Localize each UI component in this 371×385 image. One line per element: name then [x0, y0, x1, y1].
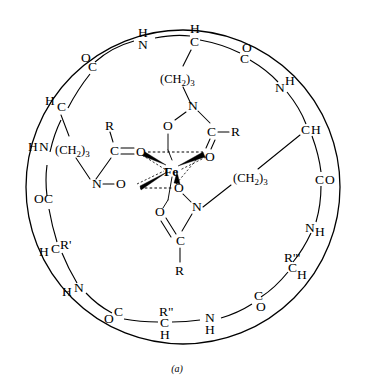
- label-hydrox-left-Ohydroxyl: O: [116, 176, 126, 191]
- label-top-C: C: [190, 34, 199, 49]
- label-right-N: N: [275, 80, 285, 95]
- label-hydrox-bottom-R: R: [175, 263, 184, 278]
- sidechain-top: (CH2)3: [160, 50, 195, 104]
- label-right-CH-H: H: [311, 122, 321, 137]
- bond-leftC-leftR: [110, 132, 113, 142]
- bond-ch2right-Nbottom: [203, 185, 231, 207]
- label-fe-center: Fe: [164, 164, 178, 179]
- bond-leftN-leftC: [96, 158, 111, 179]
- figure-caption: (a): [171, 363, 183, 375]
- label-left-N: N: [39, 139, 49, 154]
- label-bottom-C-H: H: [160, 327, 170, 342]
- label-hydrox-left-R: R: [105, 118, 114, 133]
- bond-bottomC-blC: [124, 319, 158, 322]
- backbone-node-top-carbon: C H: [190, 21, 200, 49]
- label-right-CH-C: C: [301, 122, 310, 137]
- backbone-node-right-ch: C H: [301, 122, 321, 137]
- label-lr-N: N: [305, 220, 315, 235]
- bond-topC-topO-b: [211, 140, 215, 149]
- label-ll-N: N: [74, 280, 84, 295]
- label-hydrox-bottom-Ocarbonyl: O: [155, 204, 165, 219]
- hydroxamate-left: N O C R O: [92, 118, 146, 191]
- label-ch2-left: (CH2)3: [55, 143, 90, 159]
- bond-bottomN-bottomC: [182, 214, 192, 231]
- bond-topN-topOH: [175, 112, 186, 120]
- backbone-node-lowerleft-carbon: C H R': [39, 237, 71, 259]
- backbone-node-lowerright-nitrogen: N H: [305, 220, 325, 239]
- wedge-Fe-to-lowerleftO: [140, 172, 167, 190]
- wedge-Fe-to-upperrightO: [178, 152, 205, 166]
- backbone-node-lowerleft-nitrogen: N H: [62, 280, 84, 299]
- backbone-node-bottomleft-carbonyl: C O: [104, 304, 123, 326]
- backbone-node-bottom-carbon: C R" H: [159, 304, 174, 342]
- label-hydrox-left-C: C: [110, 143, 119, 158]
- bond-topC-topO-a: [206, 139, 210, 148]
- label-left-C: C: [44, 191, 53, 206]
- bond-brC-bottomN: [221, 304, 252, 318]
- label-br-O: O: [256, 299, 266, 314]
- bond-topC-ch2top: [183, 50, 191, 66]
- label-ch2-right: (CH2)3: [233, 171, 268, 187]
- coord-line-topO-Fe: [168, 150, 172, 160]
- label-bl-C: C: [114, 304, 123, 319]
- label-right-CO-C: C: [315, 172, 324, 187]
- label-ul-H: H: [45, 93, 55, 108]
- label-hydrox-top-N: N: [188, 98, 198, 113]
- backbone-node-bottom-nitrogen: N H: [205, 310, 215, 337]
- label-ch2-top: (CH2)3: [160, 72, 195, 88]
- bond-rN-rCH: [287, 92, 306, 124]
- label-hydrox-top-Ocarbonyl: O: [205, 149, 215, 164]
- label-ul-C: C: [57, 99, 66, 114]
- backbone-node-right-co: C O: [315, 172, 335, 187]
- label-hydrox-bottom-C: C: [176, 233, 185, 248]
- backbone-node-right-nitrogen: N H: [275, 73, 295, 95]
- bond-rCH-ch2right: [258, 135, 300, 169]
- label-ll-C: C: [51, 241, 60, 256]
- label-right-CO-O: O: [325, 172, 335, 187]
- structure-svg: N H C H C O N H C H C O N H C R''' H C O: [0, 0, 371, 385]
- bond-topN-topC: [198, 111, 210, 123]
- backbone-node-lowerright-carbon: C R''' H: [284, 250, 307, 282]
- bond-topleftC-topN: [95, 41, 134, 62]
- bond-bottomN-bottomOH: [183, 194, 191, 202]
- chemical-structure-figure: N H C H C O N H C H C O N H C R''' H C O: [0, 0, 371, 385]
- bond-ulC-topleftC: [68, 74, 90, 108]
- backbone-node-left-oc: O C: [34, 191, 53, 206]
- label-top-C-H: H: [190, 21, 200, 36]
- label-ll-R: R': [60, 237, 71, 252]
- label-lr-H: H: [297, 267, 307, 282]
- label-bottom-R: R": [159, 304, 174, 319]
- bond-urC-rN: [250, 60, 278, 82]
- bond-topC-urC: [200, 40, 240, 53]
- bond-llN-llC: [62, 253, 77, 283]
- label-hydrox-bottom-N: N: [192, 199, 202, 214]
- bond-llC-leftOC: [49, 209, 57, 242]
- backbone-node-top-nitrogen: N H: [138, 25, 148, 52]
- hydroxamate-bottom: N O C O R: [155, 180, 202, 278]
- label-hydrox-top-Ohydroxyl: O: [163, 118, 173, 133]
- label-hydrox-top-C: C: [207, 124, 216, 139]
- bond-ch2left-Nleft: [76, 158, 90, 179]
- label-bottom-N-H: H: [205, 322, 215, 337]
- bond-rCH-rCO: [312, 136, 321, 172]
- bond-bottomN-bottomC: [172, 320, 200, 322]
- label-left-O: O: [34, 191, 44, 206]
- bond-rCO-lrN: [316, 186, 321, 222]
- coord-fine-leftO-Fe: [142, 155, 166, 170]
- bond-lrC-brC: [261, 272, 288, 297]
- backbone-node-bottomright-carbonyl: C O: [254, 288, 266, 314]
- bond-topN-topC: [155, 35, 190, 38]
- sidechain-left: (CH2)3: [55, 115, 90, 179]
- label-lr-R: R''': [284, 250, 300, 265]
- label-lr-N-H: H: [315, 224, 325, 239]
- label-top-N-H: H: [138, 25, 148, 40]
- label-hydrox-top-R: R: [231, 124, 240, 139]
- bond-blC-llN: [86, 293, 112, 313]
- wedge-Fe-to-upperleftO: [143, 152, 166, 165]
- fe-coordination-sphere: Fe: [137, 134, 206, 208]
- bond-ulC-ch2left: [61, 115, 69, 136]
- sidechain-right: (CH2)3: [203, 135, 300, 207]
